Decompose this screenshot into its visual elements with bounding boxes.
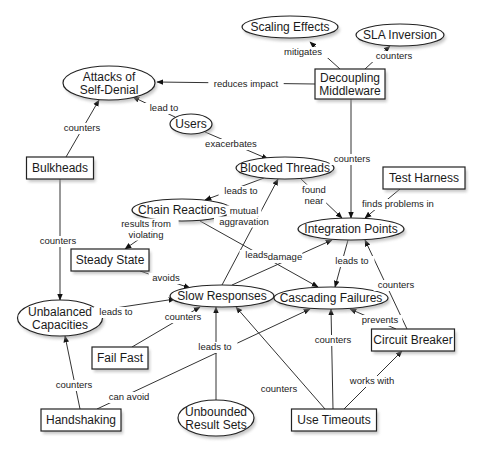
edge-label-text: finds problems in bbox=[362, 198, 434, 209]
edge-label-text: aggravation bbox=[219, 216, 269, 227]
edge-label-text: prevents bbox=[362, 314, 399, 325]
node-label: Scaling Effects bbox=[250, 20, 329, 34]
edge-label: counters bbox=[330, 153, 375, 165]
edge-label-text: leads to bbox=[99, 306, 132, 317]
edge-label-text: counters bbox=[378, 279, 415, 290]
edge-label: counters bbox=[161, 311, 206, 323]
edge-label-text: counters bbox=[64, 122, 101, 133]
node-unbounded[interactable]: UnboundedResult Sets bbox=[178, 400, 256, 439]
edge-label-text: counters bbox=[376, 50, 413, 61]
node-steady[interactable]: Steady State bbox=[71, 249, 151, 274]
edge-label: works with bbox=[345, 375, 400, 387]
node-label: Circuit Breaker bbox=[373, 333, 452, 347]
node-label: Steady State bbox=[76, 253, 145, 267]
edge-label-text: counters bbox=[40, 235, 77, 246]
edge-label-text: damage bbox=[268, 251, 302, 262]
node-label: Slow Responses bbox=[177, 289, 266, 303]
edge-label: lead to bbox=[144, 102, 184, 114]
edge-label-text: leads to bbox=[198, 341, 231, 352]
node-attacks[interactable]: Attacks ofSelf-Denial bbox=[63, 66, 157, 103]
node-label: Middleware bbox=[319, 84, 381, 98]
edge-label: leads to bbox=[94, 306, 139, 318]
edge-label: exacerbates bbox=[201, 138, 261, 150]
node-sla[interactable]: SLA Inversion bbox=[356, 24, 446, 49]
node-label: Result Sets bbox=[185, 418, 246, 432]
node-failfast[interactable]: Fail Fast bbox=[92, 347, 150, 372]
edge-label: mitigates bbox=[278, 46, 328, 58]
edge-label: results fromviolating bbox=[113, 218, 178, 241]
node-scaling[interactable]: Scaling Effects bbox=[242, 16, 340, 41]
edge-label: counters bbox=[36, 235, 81, 247]
edge-label-text: violating bbox=[129, 229, 164, 240]
node-unbalanced[interactable]: UnbalancedCapacities bbox=[18, 300, 105, 339]
edge-label-text: counters bbox=[315, 334, 352, 345]
node-bulkheads[interactable]: Bulkheads bbox=[27, 157, 96, 182]
edge-label-text: mitigates bbox=[284, 46, 322, 57]
node-slow[interactable]: Slow Responses bbox=[170, 285, 276, 310]
edge-label: foundnear bbox=[299, 184, 329, 207]
edge-label: counters bbox=[374, 279, 419, 291]
edge-label-text: found bbox=[302, 184, 326, 195]
node-label: Test Harness bbox=[389, 171, 459, 185]
node-timeouts[interactable]: Use Timeouts bbox=[292, 409, 379, 434]
node-circuit[interactable]: Circuit Breaker bbox=[372, 329, 457, 354]
node-label: Cascading Failures bbox=[280, 291, 383, 305]
node-label: Decoupling bbox=[320, 71, 380, 85]
edge-timeouts-to-cascading bbox=[331, 309, 333, 409]
node-label: Bulkheads bbox=[32, 161, 88, 175]
edge-label-text: counters bbox=[334, 153, 371, 164]
edge-label-text: results from bbox=[121, 218, 171, 229]
edge-label: counters bbox=[372, 50, 417, 62]
node-integration[interactable]: Integration Points bbox=[298, 218, 406, 243]
node-blocked[interactable]: Blocked Threads bbox=[236, 157, 336, 182]
edge-label: leads to bbox=[330, 255, 375, 267]
node-label: Fail Fast bbox=[97, 351, 144, 365]
node-label: Handshaking bbox=[46, 413, 116, 427]
edge-label-text: exacerbates bbox=[205, 138, 257, 149]
edge-label: avoids bbox=[149, 272, 184, 284]
node-label: Blocked Threads bbox=[240, 161, 330, 175]
edge-label: counters bbox=[52, 379, 97, 391]
node-label: Capacities bbox=[32, 318, 88, 332]
edge-label: counters bbox=[60, 122, 105, 134]
edge-label: leads to bbox=[219, 185, 264, 197]
node-label: Unbounded bbox=[185, 405, 247, 419]
edge-label: counters bbox=[257, 383, 302, 395]
edge-label-text: counters bbox=[56, 379, 93, 390]
edge-label-text: near bbox=[304, 195, 323, 206]
edge-label-text: works with bbox=[349, 375, 394, 386]
node-label: Self-Denial bbox=[80, 83, 139, 97]
node-users[interactable]: Users bbox=[170, 114, 214, 137]
node-testharness[interactable]: Test Harness bbox=[383, 167, 467, 192]
edge-label-text: counters bbox=[165, 311, 202, 322]
edge-label: counters bbox=[311, 334, 356, 346]
concept-map-svg: Scaling EffectsSLA InversionAttacks ofSe… bbox=[0, 0, 485, 455]
edge-label: can avoid bbox=[104, 391, 154, 403]
node-cascading[interactable]: Cascading Failures bbox=[274, 287, 390, 312]
node-label: Users bbox=[175, 117, 206, 131]
edge-label: finds problems in bbox=[353, 198, 444, 210]
edge-label-text: mutual bbox=[230, 205, 259, 216]
edge-label-text: lead to bbox=[150, 102, 179, 113]
edge-label-text: counters bbox=[261, 383, 298, 394]
edge-label-text: reduces impact bbox=[214, 78, 279, 89]
node-decoupling[interactable]: DecouplingMiddleware bbox=[315, 69, 387, 102]
edge-label-text: can avoid bbox=[109, 391, 150, 402]
edge-label-text: leads to bbox=[335, 255, 368, 266]
node-label: Attacks of bbox=[83, 70, 136, 84]
edge-label: leads to bbox=[193, 341, 238, 353]
node-label: Chain Reactions bbox=[138, 203, 226, 217]
concept-map-canvas: Scaling EffectsSLA InversionAttacks ofSe… bbox=[0, 0, 485, 455]
edge-label: reduces impact bbox=[208, 78, 283, 90]
node-handshaking[interactable]: Handshaking bbox=[41, 409, 123, 434]
edge-handshaking-to-unbalanced bbox=[65, 336, 80, 409]
node-label: Unbalanced bbox=[28, 305, 92, 319]
edge-label: prevents bbox=[358, 314, 403, 326]
edge-label-text: avoids bbox=[152, 272, 180, 283]
node-label: Integration Points bbox=[304, 222, 397, 236]
edge-label: damage bbox=[268, 251, 303, 263]
edge-label-text: leads to bbox=[224, 185, 257, 196]
node-label: SLA Inversion bbox=[363, 28, 437, 42]
node-label: Use Timeouts bbox=[297, 413, 370, 427]
